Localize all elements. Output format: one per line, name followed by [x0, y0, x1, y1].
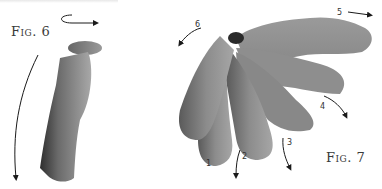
- curve-down-arrow-icon: [15, 55, 38, 178]
- step-number-6: 6: [195, 20, 200, 29]
- illustration-svg: [0, 0, 382, 189]
- rotate-arrow-icon: [62, 15, 97, 23]
- step-number-1: 1: [206, 159, 211, 168]
- illustration-stage: Fig. 6 Fig. 7 1 2 3 4 5 6: [0, 0, 382, 189]
- step-number-4: 4: [320, 102, 325, 111]
- arrow-4-icon: [324, 96, 346, 116]
- step-number-3: 3: [287, 138, 292, 147]
- step-number-5: 5: [337, 8, 342, 17]
- figure-6-drawing: [15, 15, 102, 182]
- arrow-5-icon: [348, 12, 370, 15]
- figure-7-label: Fig. 7: [326, 150, 365, 165]
- figure-6-label: Fig. 6: [11, 24, 50, 39]
- step-number-2: 2: [242, 152, 247, 161]
- arrow-6-icon: [180, 28, 201, 44]
- arrow-2-icon: [236, 150, 240, 176]
